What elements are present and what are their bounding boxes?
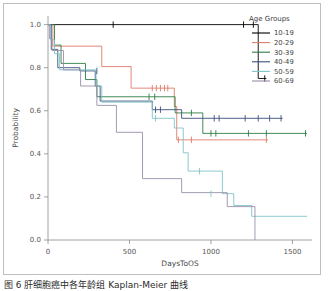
x-tick-label: 500 [123, 248, 136, 256]
km-curve-40-49 [48, 25, 283, 119]
y-tick-label: 1.0 [30, 21, 41, 29]
survival-plot: 0.00.20.40.60.81.0 050010001500 Probabil… [4, 4, 320, 274]
x-tick-label: 1500 [284, 248, 302, 256]
y-tick-label: 0.4 [30, 150, 42, 158]
legend-label-50-59: 50-59 [274, 68, 294, 76]
legend-label-30-39: 30-39 [274, 49, 294, 57]
km-curve-60-69 [48, 25, 255, 240]
legend-label-10-19: 10-19 [274, 29, 294, 37]
figure-caption: 图 6 肝细胞癌中各年龄组 Kaplan-Meier 曲线 [4, 279, 326, 291]
legend-label-60-69: 60-69 [274, 77, 294, 85]
km-curves-group [48, 25, 307, 240]
y-tick-label: 0.0 [30, 236, 41, 244]
plot-frame: 0.00.20.40.60.81.0 050010001500 Probabil… [3, 3, 321, 275]
x-axis-ticks: 050010001500 [46, 240, 302, 256]
legend-label-40-49: 40-49 [274, 58, 294, 66]
legend: Age Groups 10-1920-2930-3940-4950-5960-6… [249, 15, 294, 85]
y-axis-ticks: 0.00.20.40.60.81.0 [30, 21, 48, 244]
x-tick-label: 0 [46, 248, 50, 256]
km-curve-50-59 [48, 25, 307, 217]
x-tick-label: 1000 [202, 248, 220, 256]
figure-container: 0.00.20.40.60.81.0 050010001500 Probabil… [0, 0, 330, 291]
y-axis-label: Probability [11, 108, 20, 148]
km-curve-30-39 [48, 25, 307, 134]
legend-label-20-29: 20-29 [274, 39, 294, 47]
legend-title: Age Groups [249, 15, 290, 23]
x-axis-label: DaysToOS [161, 259, 199, 268]
y-tick-label: 0.6 [30, 107, 42, 115]
y-tick-label: 0.8 [30, 64, 41, 72]
y-tick-label: 0.2 [30, 193, 41, 201]
